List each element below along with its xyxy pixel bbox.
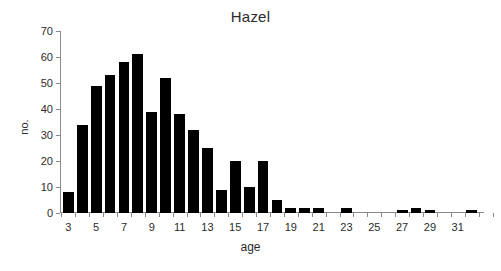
x-tick-mark xyxy=(437,213,438,217)
chart-title: Hazel xyxy=(0,8,501,25)
y-tick-label: 60 xyxy=(41,51,53,63)
bar xyxy=(174,114,185,213)
bar xyxy=(313,208,324,213)
x-tick-mark xyxy=(395,213,396,217)
x-tick-mark xyxy=(479,213,480,217)
x-tick-mark xyxy=(61,213,62,217)
y-tick-label: 0 xyxy=(47,207,53,219)
x-tick-mark xyxy=(242,213,243,217)
x-tick-mark xyxy=(187,213,188,217)
x-tick-mark xyxy=(381,213,382,217)
bar xyxy=(146,112,157,213)
x-tick-label: 7 xyxy=(121,221,127,233)
y-tick-mark xyxy=(56,213,60,214)
x-tick-mark xyxy=(367,213,368,217)
bar xyxy=(216,190,227,213)
x-tick-mark xyxy=(214,213,215,217)
x-tick-label: 25 xyxy=(368,221,380,233)
bar xyxy=(160,78,171,213)
chart-figure: Hazel no. 010203040506070 35791113151719… xyxy=(0,0,501,271)
y-tick-label: 70 xyxy=(41,25,53,37)
x-tick-mark xyxy=(200,213,201,217)
y-tick-label: 50 xyxy=(41,77,53,89)
x-tick-mark xyxy=(493,213,494,217)
x-tick-mark xyxy=(284,213,285,217)
bar xyxy=(77,125,88,213)
bar xyxy=(63,192,74,213)
x-tick-mark xyxy=(117,213,118,217)
bar xyxy=(466,210,477,213)
x-tick-mark xyxy=(326,213,327,217)
x-tick-mark xyxy=(131,213,132,217)
x-tick-label: 5 xyxy=(93,221,99,233)
x-tick-label: 15 xyxy=(229,221,241,233)
y-tick-label: 20 xyxy=(41,155,53,167)
plot-area: 010203040506070 357911131517192123252729… xyxy=(60,31,480,213)
y-tick-label: 10 xyxy=(41,181,53,193)
x-tick-label: 29 xyxy=(424,221,436,233)
x-tick-mark xyxy=(145,213,146,217)
x-tick-label: 11 xyxy=(174,221,185,233)
bar xyxy=(425,210,436,213)
x-tick-label: 17 xyxy=(257,221,269,233)
bar xyxy=(202,148,213,213)
bar xyxy=(285,208,296,213)
bar xyxy=(258,161,269,213)
bar xyxy=(411,208,422,213)
bar xyxy=(230,161,241,213)
bar xyxy=(397,210,408,213)
x-tick-mark xyxy=(270,213,271,217)
x-tick-mark xyxy=(340,213,341,217)
bar xyxy=(132,54,143,213)
x-tick-mark xyxy=(409,213,410,217)
y-axis-label: no. xyxy=(8,37,20,97)
bar xyxy=(91,86,102,213)
x-tick-label: 3 xyxy=(65,221,71,233)
bar xyxy=(188,130,199,213)
bar xyxy=(105,75,116,213)
y-tick-label: 40 xyxy=(41,103,53,115)
x-tick-label: 21 xyxy=(313,221,325,233)
x-tick-label: 27 xyxy=(396,221,408,233)
x-tick-mark xyxy=(256,213,257,217)
x-tick-mark xyxy=(228,213,229,217)
bar xyxy=(299,208,310,213)
x-tick-label: 13 xyxy=(201,221,213,233)
x-tick-mark xyxy=(159,213,160,217)
x-tick-mark xyxy=(451,213,452,217)
x-tick-mark xyxy=(75,213,76,217)
x-tick-label: 19 xyxy=(285,221,297,233)
bar xyxy=(244,187,255,213)
x-tick-mark xyxy=(353,213,354,217)
x-tick-mark xyxy=(465,213,466,217)
x-tick-label: 23 xyxy=(340,221,352,233)
x-tick-mark xyxy=(312,213,313,217)
bar xyxy=(119,62,130,213)
y-tick-label: 30 xyxy=(41,129,53,141)
x-tick-label: 9 xyxy=(149,221,155,233)
x-axis-label: age xyxy=(0,240,501,254)
x-tick-mark xyxy=(423,213,424,217)
x-tick-mark xyxy=(103,213,104,217)
x-tick-mark xyxy=(89,213,90,217)
x-tick-mark xyxy=(298,213,299,217)
y-axis-label-text: no. xyxy=(18,97,30,157)
x-tick-label: 31 xyxy=(452,221,464,233)
x-tick-mark xyxy=(173,213,174,217)
bar xyxy=(341,208,352,213)
bar-series xyxy=(60,31,480,213)
bar xyxy=(272,200,283,213)
